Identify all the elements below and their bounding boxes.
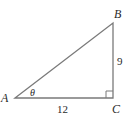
vertex-label-b: B <box>114 7 122 21</box>
vertex-label-c: C <box>112 102 121 116</box>
side-label-bc: 9 <box>117 55 123 67</box>
triangle-diagram: A B C θ 12 9 <box>0 0 127 116</box>
right-angle-marker <box>106 91 113 98</box>
angle-label-theta: θ <box>30 87 35 98</box>
vertex-label-a: A <box>0 91 9 105</box>
side-label-ac: 12 <box>57 103 68 115</box>
